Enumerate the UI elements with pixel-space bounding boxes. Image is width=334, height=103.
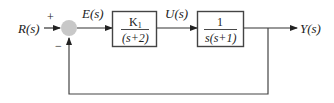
summing-junction [61, 20, 77, 36]
plant-numerator: 1 [217, 15, 223, 29]
control-signal-label: U(s) [165, 6, 188, 21]
input-label: R(s) [17, 21, 40, 36]
block-diagram: R(s) + − E(s) K1 (s+2) U(s) 1 s(s+1) Y(s… [0, 0, 334, 103]
controller-denominator: (s+2) [122, 31, 149, 45]
minus-sign: − [55, 39, 62, 53]
plus-sign: + [47, 10, 54, 24]
output-label: Y(s) [300, 21, 321, 36]
plant-denominator: s(s+1) [205, 31, 236, 45]
error-signal-label: E(s) [81, 6, 104, 21]
